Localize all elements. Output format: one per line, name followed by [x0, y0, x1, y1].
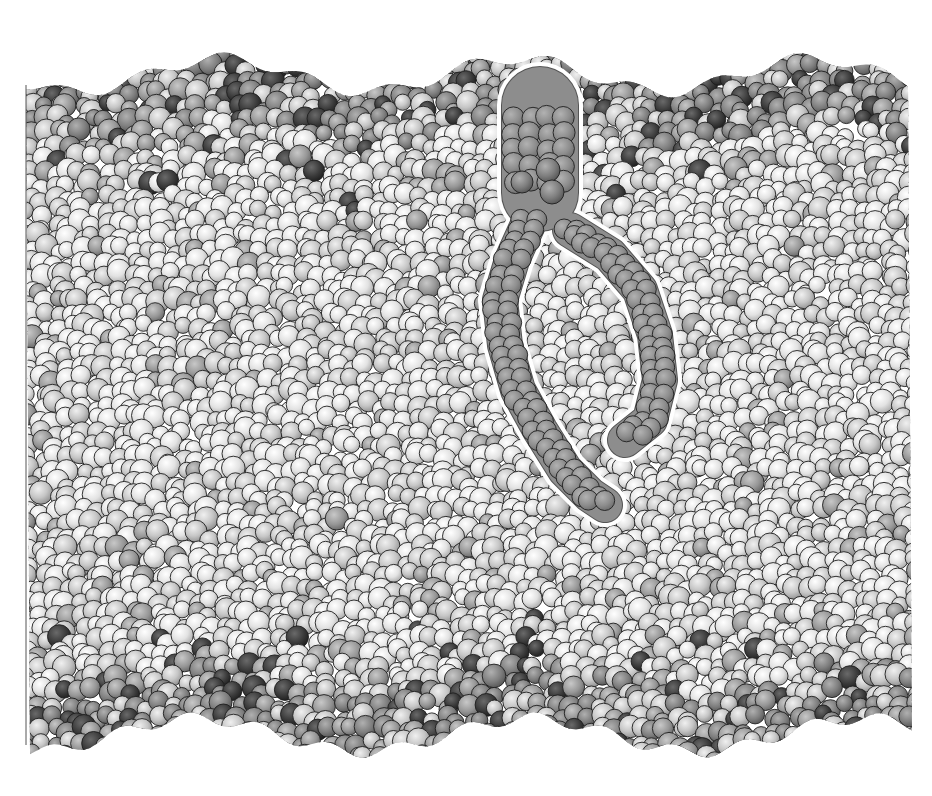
figure-stage: Space-filling molecular model of a lipid…: [0, 0, 932, 796]
atom-layer: [0, 40, 929, 787]
lipid-bilayer-model: [0, 0, 932, 796]
